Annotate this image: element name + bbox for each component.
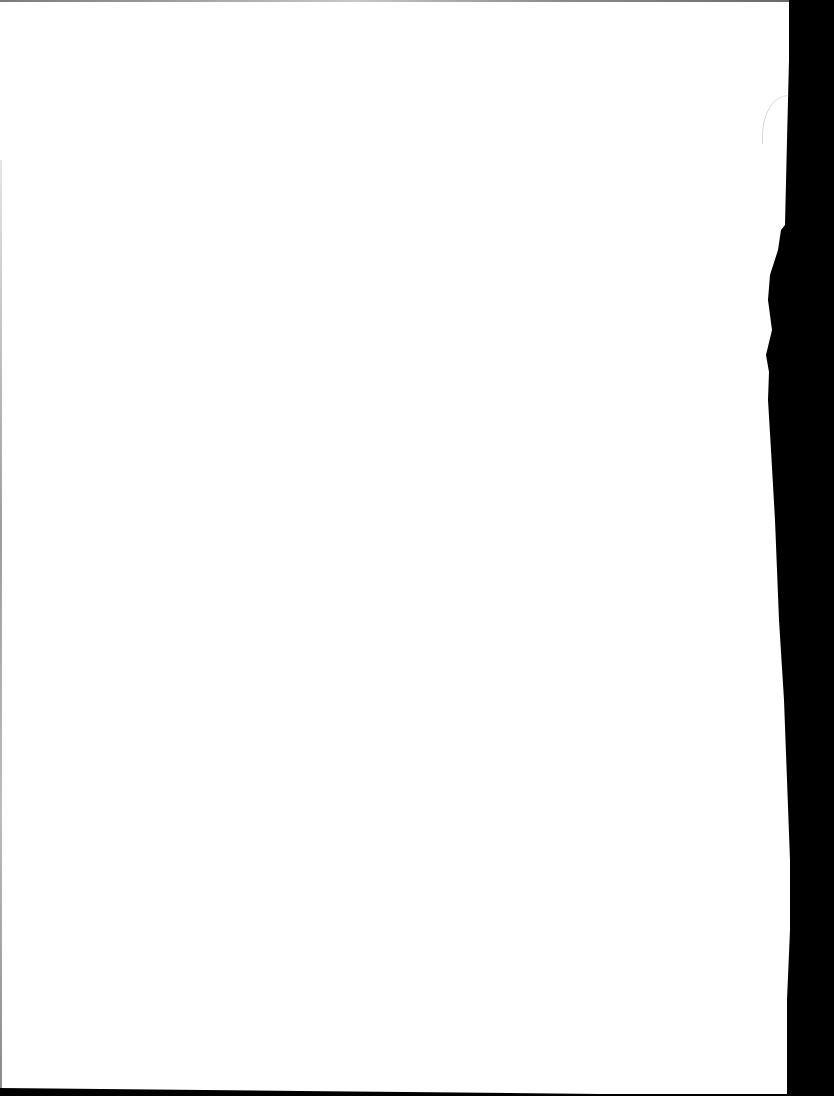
scanned-document (0, 0, 834, 1096)
paper-curl-mark (762, 95, 789, 144)
scan-edge-left (0, 160, 2, 1090)
blank-page (0, 0, 834, 1096)
scan-edge-top (0, 0, 789, 2)
